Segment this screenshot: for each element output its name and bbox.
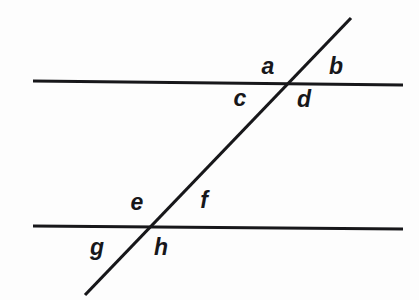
angle-label-e: e — [131, 191, 144, 214]
angle-label-b: b — [329, 55, 343, 78]
angle-label-a: a — [262, 55, 275, 78]
angle-label-c: c — [234, 87, 247, 110]
angle-label-f: f — [200, 189, 208, 212]
angle-label-g: g — [90, 236, 104, 259]
geometry-diagram: a b c d e f g h — [0, 0, 419, 300]
diagram-background — [0, 0, 419, 300]
angle-label-d: d — [297, 88, 311, 111]
geometry-canvas — [0, 0, 419, 300]
angle-label-h: h — [154, 236, 168, 259]
